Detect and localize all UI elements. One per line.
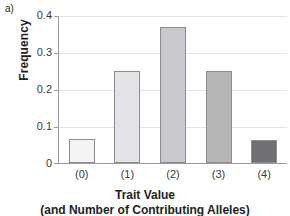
y-axis-tick-label: 0 — [6, 158, 52, 169]
x-axis-tick-label: (0) — [59, 168, 105, 182]
bar-slot — [150, 16, 196, 163]
y-axis-tick-label: 0.1 — [6, 121, 52, 132]
bar-series — [59, 16, 287, 163]
x-axis-title: Trait Value — [0, 188, 290, 202]
x-axis-subtitle: (and Number of Contributing Alleles) — [0, 203, 290, 216]
bar[interactable] — [251, 140, 277, 163]
bar[interactable] — [69, 139, 95, 163]
x-axis-tick-label: (4) — [241, 168, 287, 182]
plot-area — [58, 16, 287, 164]
bar-slot — [105, 16, 151, 163]
y-axis-tick — [54, 53, 58, 54]
bar[interactable] — [114, 71, 140, 163]
x-axis-tick-label: (2) — [150, 168, 196, 182]
y-axis-tick — [54, 90, 58, 91]
bar-slot — [59, 16, 105, 163]
y-axis-tick — [54, 163, 58, 164]
x-axis-tick-label: (1) — [105, 168, 151, 182]
bar-slot — [196, 16, 242, 163]
figure-panel: a) Frequency 00.10.20.30.4 (0)(1)(2)(3)(… — [0, 0, 290, 216]
bar[interactable] — [160, 27, 186, 163]
bar[interactable] — [206, 71, 232, 163]
y-axis-tick-label: 0.2 — [6, 84, 52, 95]
y-axis-tick — [54, 127, 58, 128]
x-axis-line — [58, 163, 287, 164]
y-axis-tick-label: 0.3 — [6, 47, 52, 58]
x-axis-tick-labels: (0)(1)(2)(3)(4) — [59, 168, 287, 182]
bar-slot — [241, 16, 287, 163]
y-axis-tick-label: 0.4 — [6, 10, 52, 21]
x-axis-tick-label: (3) — [196, 168, 242, 182]
y-axis-tick — [54, 16, 58, 17]
